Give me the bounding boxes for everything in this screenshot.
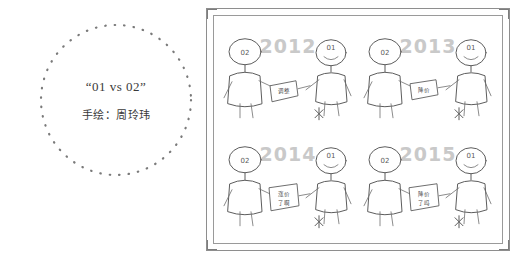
sign: 调整 — [270, 81, 298, 102]
left-figure-label: 02 — [381, 156, 390, 164]
year-label: 2014 — [260, 142, 317, 164]
comic-cell-2014: 2014 02 01 — [218, 130, 358, 238]
comic-cell-2012: 2012 02 01 — [218, 22, 358, 130]
left-figure-label: 02 — [381, 49, 390, 57]
right-mark-asterisk — [455, 108, 463, 120]
comic-cell-2013: 2013 02 01 — [358, 22, 498, 130]
sign-text-line-1: 涨价 — [278, 189, 290, 197]
comic-panels-grid: 2012 02 01 — [218, 22, 498, 237]
frame-corner-bottom-right — [499, 240, 509, 250]
left-figure-label: 02 — [241, 49, 250, 57]
year-label: 2015 — [400, 142, 457, 164]
page-title: “01 vs 02” — [36, 78, 196, 96]
frame-corner-top-right — [499, 9, 509, 19]
right-mark-asterisk — [315, 215, 323, 227]
left-figure-label: 02 — [241, 156, 250, 164]
title-panel: “01 vs 02” 手绘：周玲玮 — [36, 20, 196, 180]
sign-text: 调整 — [278, 87, 290, 95]
comic-panel: 2012 02 01 — [206, 8, 510, 251]
right-figure-label: 01 — [467, 151, 476, 159]
sign: 降价 了吗 — [409, 183, 439, 210]
sign-text-line-2: 了啊 — [278, 199, 290, 206]
right-figure-label: 01 — [327, 151, 336, 159]
frame-corner-top-left — [207, 9, 217, 19]
sign-text-line-1: 降价 — [418, 189, 430, 197]
year-label: 2012 — [260, 35, 317, 57]
page-root: “01 vs 02” 手绘：周玲玮 2012 02 — [0, 0, 520, 259]
right-mark-asterisk — [455, 215, 463, 227]
sign-text-line-2: 了吗 — [418, 198, 430, 206]
right-mark-asterisk — [315, 108, 323, 120]
right-figure-label: 01 — [467, 44, 476, 52]
frame-corner-bottom-left — [207, 240, 217, 250]
year-label: 2013 — [400, 35, 457, 57]
caption-block: “01 vs 02” 手绘：周玲玮 — [36, 78, 196, 123]
right-figure-label: 01 — [327, 44, 336, 52]
credit-line: 手绘：周玲玮 — [36, 108, 196, 123]
sign: 涨价 了啊 — [269, 183, 299, 210]
sign-text: 降价 — [418, 86, 430, 94]
comic-cell-2015: 2015 02 01 — [358, 130, 498, 238]
sign: 降价 — [410, 80, 438, 100]
